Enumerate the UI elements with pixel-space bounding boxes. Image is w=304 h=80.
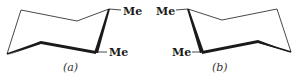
- me-label-upper: Me: [156, 5, 175, 18]
- me-bond-upper: [109, 9, 121, 10]
- diagram-canvas: Me Me (a) Me Me (b): [0, 0, 304, 80]
- ring-front-bond-right: [94, 9, 110, 53]
- me-label-lower: Me: [109, 46, 128, 59]
- me-label-upper: Me: [123, 5, 142, 18]
- ring-front-bond-bottom: [8, 41, 96, 55]
- chair-conformation-a: Me Me (a): [7, 5, 142, 74]
- me-label-lower: Me: [172, 46, 191, 59]
- caption-a: (a): [63, 61, 78, 74]
- me-bond-upper: [176, 9, 188, 10]
- chair-conformation-b: Me Me (b): [156, 5, 291, 74]
- ring-back-bonds: [7, 9, 109, 54]
- caption-b: (b): [212, 61, 228, 74]
